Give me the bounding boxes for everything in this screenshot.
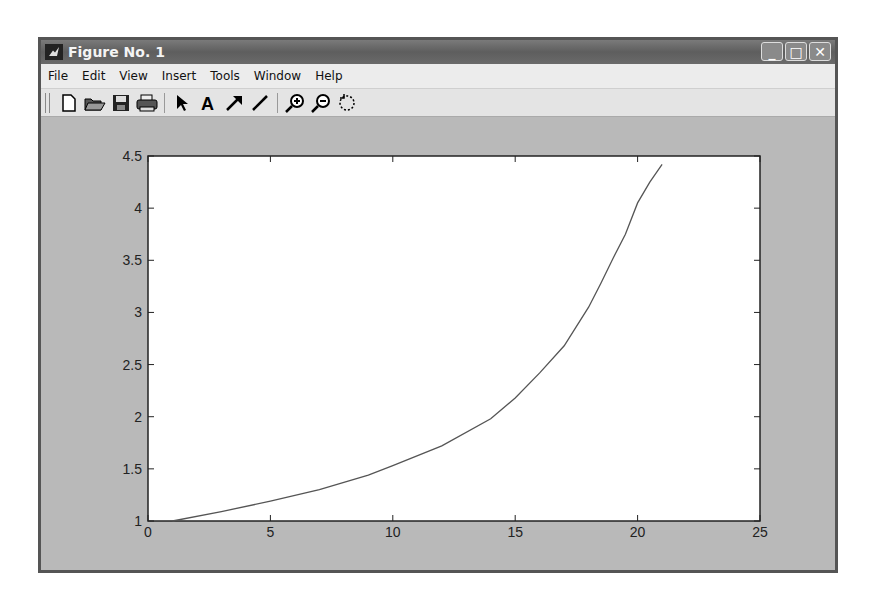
print-button[interactable] (134, 92, 160, 114)
open-file-icon (84, 95, 106, 111)
menu-tools[interactable]: Tools (203, 69, 247, 83)
y-tick-label: 1 (134, 513, 142, 529)
y-tick-label: 3 (134, 304, 142, 320)
insert-text-icon: A (199, 94, 217, 112)
open-file-button[interactable] (82, 92, 108, 114)
menu-bar: File Edit View Insert Tools Window Help (41, 64, 835, 89)
zoom-out-button[interactable] (308, 92, 334, 114)
toolbar-separator (164, 93, 165, 113)
x-tick-label: 10 (385, 524, 401, 540)
insert-arrow-button[interactable] (221, 92, 247, 114)
save-button[interactable] (108, 92, 134, 114)
toolbar-grip[interactable] (45, 93, 50, 113)
maximize-button[interactable]: □ (785, 42, 807, 61)
edit-plot-button[interactable] (169, 92, 195, 114)
insert-arrow-icon (225, 94, 243, 112)
menu-help[interactable]: Help (308, 69, 349, 83)
rotate-3d-icon (337, 93, 357, 113)
rotate-3d-button[interactable] (334, 92, 360, 114)
y-tick-label: 2 (134, 409, 142, 425)
plot-area (148, 156, 760, 521)
minimize-button[interactable]: _ (761, 42, 783, 61)
menu-view[interactable]: View (112, 69, 154, 83)
zoom-in-icon (285, 93, 305, 113)
x-tick-label: 15 (507, 524, 523, 540)
figure-window: Figure No. 1 _ □ ✕ File Edit View Insert… (38, 37, 838, 573)
title-bar[interactable]: Figure No. 1 _ □ ✕ (41, 40, 835, 64)
menu-file[interactable]: File (41, 69, 75, 83)
x-tick-label: 20 (630, 524, 646, 540)
window-controls: _ □ ✕ (761, 42, 831, 61)
y-tick-label: 4 (134, 200, 142, 216)
y-tick-label: 4.5 (123, 148, 143, 164)
menu-edit[interactable]: Edit (75, 69, 112, 83)
insert-line-icon (251, 94, 269, 112)
y-tick-label: 2.5 (123, 357, 143, 373)
new-figure-button[interactable] (56, 92, 82, 114)
window-title: Figure No. 1 (68, 44, 165, 60)
edit-plot-arrow-icon (175, 94, 189, 112)
menu-insert[interactable]: Insert (155, 69, 203, 83)
save-icon (112, 94, 130, 112)
zoom-in-button[interactable] (282, 92, 308, 114)
svg-text:A: A (201, 94, 214, 112)
x-tick-label: 0 (144, 524, 152, 540)
y-tick-label: 3.5 (123, 252, 143, 268)
figure-canvas: 051015202511.522.533.544.5 (41, 117, 835, 570)
y-tick-label: 1.5 (123, 461, 143, 477)
insert-line-button[interactable] (247, 92, 273, 114)
menu-window[interactable]: Window (247, 69, 308, 83)
close-button[interactable]: ✕ (809, 42, 831, 61)
zoom-out-icon (311, 93, 331, 113)
line-chart[interactable]: 051015202511.522.533.544.5 (41, 117, 835, 570)
insert-text-button[interactable]: A (195, 92, 221, 114)
matlab-logo-icon (45, 44, 63, 60)
toolbar-separator (277, 93, 278, 113)
new-figure-icon (61, 94, 77, 112)
figure-toolbar: A (41, 89, 835, 117)
print-icon (136, 94, 158, 112)
x-tick-label: 25 (752, 524, 768, 540)
x-tick-label: 5 (267, 524, 275, 540)
